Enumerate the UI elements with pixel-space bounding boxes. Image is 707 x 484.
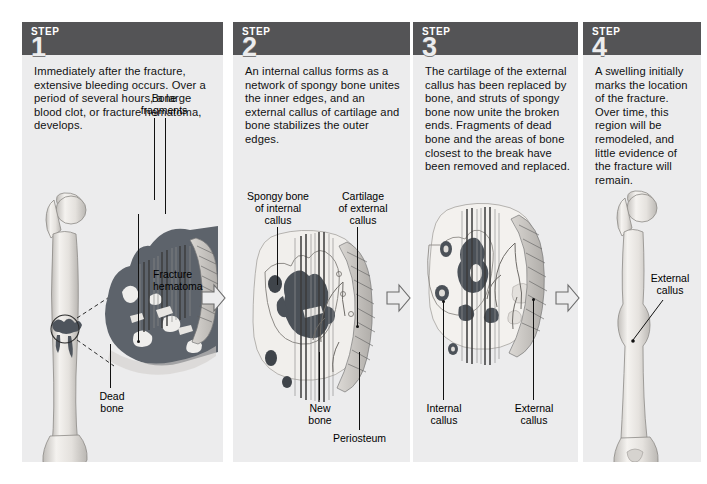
leader-new-bone [319,352,320,400]
arrow-step1-to-step2 [200,283,226,313]
dot-external-callus-3 [532,298,535,301]
step-header-2: STEP 2 [233,22,410,55]
leader-bone-fragments-a [154,118,155,200]
step-header-1: STEP 1 [22,22,223,55]
step-panel-1: STEP 1 Immediately after the fracture, e… [22,22,223,462]
label-cartilage-of-external-callus: Cartilage of external callus [325,190,401,226]
label-bone-fragments: Bone fragments [114,92,214,116]
step-description-3: The cartilage of the external callus has… [425,65,575,174]
leader-dead-bone [110,344,111,388]
step-header-4: STEP 4 [583,22,701,55]
label-external-callus-4: External callus [641,272,699,296]
leader-bone-fragments-b [165,118,166,214]
step-panel-2: STEP 2 An internal callus forms as a net… [233,22,410,462]
leader-external-callus-3 [533,300,534,400]
step-header-3: STEP 3 [413,22,578,55]
label-internal-callus: Internal callus [415,402,473,426]
dot-fracture-hematoma [137,340,140,343]
figure-canvas: STEP 1 Immediately after the fracture, e… [0,0,707,484]
label-periosteum: Periosteum [333,432,409,444]
arrow-step2-to-step3 [385,283,411,313]
callus-illustration-2 [247,222,397,432]
step-number-2: 2 [242,34,257,61]
dot-internal-callus [442,300,445,303]
leader-cartilage [357,227,358,327]
arrow-step3-to-step4 [554,283,580,313]
step-number-3: 3 [422,34,437,61]
step-description-2: An internal callus forms as a network of… [245,65,405,147]
label-spongy-bone-of-internal-callus: Spongy bone of internal callus [239,190,317,226]
label-new-bone: New bone [293,402,347,426]
leader-periosteum [359,352,360,430]
step-number-4: 4 [592,34,607,61]
step-description-4: A swelling initially marks the location … [595,65,695,187]
leader-fracture-hematoma [138,214,139,342]
leader-external-callus-4 [621,296,671,356]
label-dead-bone: Dead bone [84,390,140,414]
dot-cartilage [356,325,359,328]
leader-internal-callus [443,302,444,400]
step-panel-4: STEP 4 A swelling initially marks the lo… [583,22,701,462]
label-external-callus-3: External callus [505,402,563,426]
leader-spongy-bone [277,227,278,285]
step-number-1: 1 [31,34,46,61]
step-panel-3: STEP 3 The cartilage of the external cal… [413,22,578,462]
